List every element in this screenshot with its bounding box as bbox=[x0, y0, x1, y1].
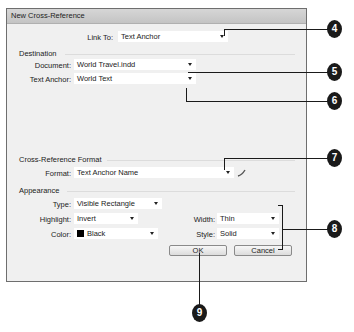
highlight-select[interactable]: Invert bbox=[74, 213, 138, 224]
type-value: Visible Rectangle bbox=[77, 199, 135, 208]
callout-5-leader bbox=[188, 72, 328, 73]
link-to-select[interactable]: Text Anchor bbox=[118, 31, 228, 42]
width-select[interactable]: Thin bbox=[217, 213, 279, 224]
chevron-down-icon bbox=[271, 217, 275, 220]
type-select[interactable]: Visible Rectangle bbox=[74, 198, 162, 209]
format-value: Text Anchor Name bbox=[77, 168, 138, 177]
style-value: Solid bbox=[220, 229, 237, 238]
document-select[interactable]: World Travel.indd bbox=[74, 59, 196, 70]
dialog-title: New Cross-Reference bbox=[7, 9, 306, 24]
width-value: Thin bbox=[220, 214, 235, 223]
color-label: Color: bbox=[15, 230, 71, 239]
chevron-down-icon bbox=[150, 232, 154, 235]
chevron-down-icon bbox=[271, 232, 275, 235]
destination-group-label: Destination bbox=[19, 49, 57, 58]
type-label: Type: bbox=[15, 200, 71, 209]
format-label: Format: bbox=[15, 169, 71, 178]
link-to-value: Text Anchor bbox=[121, 32, 160, 41]
highlight-value: Invert bbox=[77, 214, 96, 223]
chevron-down-icon bbox=[188, 77, 192, 80]
color-swatch bbox=[77, 230, 84, 237]
color-value: Black bbox=[87, 229, 105, 238]
appearance-group-label: Appearance bbox=[19, 186, 59, 195]
new-cross-reference-dialog: New Cross-Reference Link To: Text Anchor… bbox=[6, 8, 307, 282]
callout-4-leader bbox=[224, 29, 328, 30]
callout-9: 9 bbox=[192, 304, 207, 322]
callout-8: 8 bbox=[327, 220, 342, 238]
style-label: Style: bbox=[177, 230, 215, 239]
width-label: Width: bbox=[177, 215, 215, 224]
link-to-label: Link To: bbox=[67, 33, 113, 42]
pencil-icon[interactable] bbox=[237, 168, 247, 177]
text-anchor-select[interactable]: World Text bbox=[74, 73, 196, 84]
chevron-down-icon bbox=[130, 217, 134, 220]
cancel-button[interactable]: Cancel bbox=[234, 245, 292, 256]
callout-6-leader-v bbox=[186, 88, 187, 102]
style-select[interactable]: Solid bbox=[217, 228, 279, 239]
callout-4: 4 bbox=[327, 20, 342, 38]
color-select[interactable]: Black bbox=[74, 228, 158, 239]
format-select[interactable]: Text Anchor Name bbox=[74, 167, 234, 178]
chevron-down-icon bbox=[154, 202, 158, 205]
document-label: Document: bbox=[15, 61, 71, 70]
callout-6: 6 bbox=[327, 92, 342, 110]
callout-4-leader-v bbox=[224, 29, 225, 36]
callout-8-leader bbox=[282, 229, 328, 230]
callout-8-bracket-bottom bbox=[278, 249, 283, 250]
callout-6-leader bbox=[186, 101, 328, 102]
text-anchor-label: Text Anchor: bbox=[15, 75, 71, 84]
callout-7-leader bbox=[224, 158, 328, 159]
callout-5: 5 bbox=[327, 63, 342, 81]
ok-button[interactable]: OK bbox=[169, 245, 227, 256]
highlight-label: Highlight: bbox=[15, 215, 71, 224]
callout-9-leader bbox=[199, 253, 200, 309]
callout-8-bracket bbox=[282, 205, 283, 250]
format-divider bbox=[107, 160, 295, 161]
chevron-down-icon bbox=[188, 63, 192, 66]
callout-7: 7 bbox=[327, 149, 342, 167]
destination-divider bbox=[65, 54, 295, 55]
document-value: World Travel.indd bbox=[77, 60, 135, 69]
text-anchor-value: World Text bbox=[77, 74, 112, 83]
chevron-down-icon bbox=[226, 171, 230, 174]
format-group-label: Cross-Reference Format bbox=[19, 155, 102, 164]
appearance-divider bbox=[67, 191, 295, 192]
callout-7-leader-v bbox=[224, 158, 225, 170]
